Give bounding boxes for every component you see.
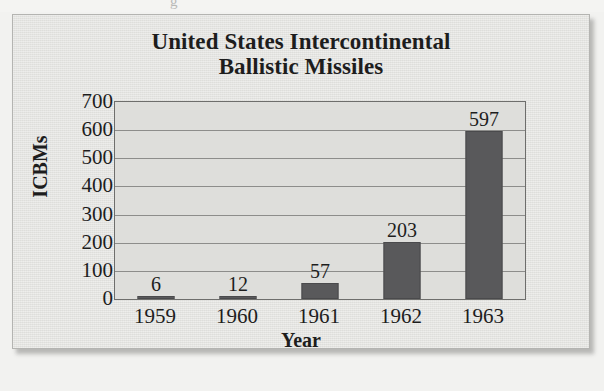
bar-group: 6 xyxy=(115,102,197,299)
bar-value-label: 597 xyxy=(469,109,499,129)
x-tick-label: 1959 xyxy=(114,304,196,328)
x-axis-tick-labels: 19591960196119621963 xyxy=(114,304,526,332)
chart-title-line-2: Ballistic Missiles xyxy=(13,54,589,79)
y-tick-label: 200 xyxy=(53,232,113,253)
x-tick-label: 1961 xyxy=(278,304,360,328)
bar-value-label: 12 xyxy=(228,274,248,294)
bar-group: 57 xyxy=(279,102,361,299)
x-tick-label: 1962 xyxy=(360,304,442,328)
bar-value-label: 6 xyxy=(151,274,161,294)
bar xyxy=(138,296,175,299)
chart-title: United States Intercontinental Ballistic… xyxy=(13,29,589,79)
bar-group: 597 xyxy=(443,102,525,299)
x-tick-label: 1960 xyxy=(196,304,278,328)
y-axis-tick-labels: 7006005004003002001000 xyxy=(53,101,113,312)
x-tick-label: 1963 xyxy=(442,304,524,328)
bar xyxy=(384,242,421,299)
bars-layer: 61257203597 xyxy=(115,102,525,299)
chart-figure: United States Intercontinental Ballistic… xyxy=(12,14,590,349)
y-tick-label: 0 xyxy=(53,288,113,309)
bar-value-label: 203 xyxy=(387,220,417,240)
bar-group: 12 xyxy=(197,102,279,299)
bar xyxy=(466,131,503,299)
bar xyxy=(220,296,257,299)
y-tick-label: 500 xyxy=(53,147,113,168)
scan-top-artifact: g xyxy=(0,0,604,12)
bar xyxy=(302,283,339,299)
y-tick-label: 600 xyxy=(53,119,113,140)
bar-value-label: 57 xyxy=(310,261,330,281)
bar-group: 203 xyxy=(361,102,443,299)
chart-title-line-1: United States Intercontinental xyxy=(151,29,450,54)
y-tick-label: 300 xyxy=(53,204,113,225)
y-axis-title: ICBMs xyxy=(29,107,52,227)
y-tick-label: 100 xyxy=(53,260,113,281)
plot-area: 61257203597 xyxy=(114,101,526,300)
scan-clipped-glyph: g xyxy=(170,0,178,10)
x-axis-title: Year xyxy=(13,329,589,352)
y-tick-label: 400 xyxy=(53,175,113,196)
y-tick-label: 700 xyxy=(53,91,113,112)
